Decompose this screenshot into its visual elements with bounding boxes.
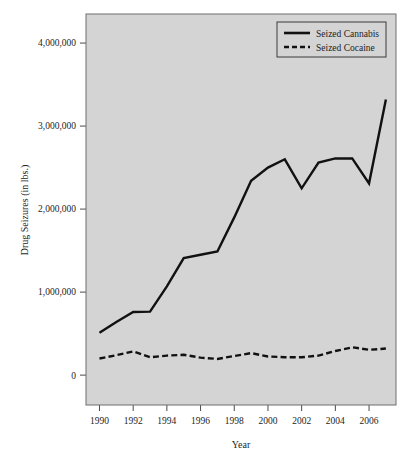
- x-tick-label: 1998: [225, 416, 244, 426]
- y-tick-label: 0: [71, 371, 76, 381]
- x-tick-label: 1990: [90, 416, 109, 426]
- x-tick-label: 2000: [258, 416, 277, 426]
- y-axis-tick-labels: 01,000,0002,000,0003,000,0004,000,000: [38, 38, 76, 380]
- y-tick-label: 4,000,000: [38, 38, 76, 48]
- legend-label-seized-cocaine: Seized Cocaine: [316, 43, 375, 53]
- x-tick-label: 1992: [124, 416, 143, 426]
- y-tick-label: 2,000,000: [38, 204, 76, 214]
- y-axis-title: Drug Seizures (in lbs.): [19, 165, 31, 256]
- y-tick-label: 1,000,000: [38, 287, 76, 297]
- x-tick-label: 2006: [360, 416, 379, 426]
- legend: Seized Cannabis Seized Cocaine: [277, 22, 386, 57]
- x-tick-label: 1996: [191, 416, 210, 426]
- x-tick-label: 1994: [157, 416, 176, 426]
- y-axis-ticks: [80, 43, 86, 375]
- drug-seizures-line-chart: 01,000,0002,000,0003,000,0004,000,000 19…: [0, 0, 406, 455]
- x-tick-label: 2004: [326, 416, 345, 426]
- x-axis-title: Year: [232, 439, 251, 450]
- y-tick-label: 3,000,000: [38, 121, 76, 131]
- legend-label-seized-cannabis: Seized Cannabis: [316, 29, 379, 39]
- x-axis-tick-labels: 199019921994199619982000200220042006: [90, 416, 379, 426]
- x-tick-label: 2002: [292, 416, 311, 426]
- plot-background: [86, 14, 396, 405]
- chart-figure: 01,000,0002,000,0003,000,0004,000,000 19…: [0, 0, 406, 455]
- x-axis-ticks: [99, 405, 369, 411]
